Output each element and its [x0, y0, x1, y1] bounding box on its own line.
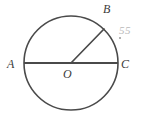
radius-segment-ob — [71, 29, 104, 63]
point-label-b: B — [103, 3, 110, 15]
geometry-figure: A B C O 55 — [0, 0, 148, 125]
point-label-c: C — [121, 58, 129, 70]
point-label-a: A — [7, 58, 14, 70]
degree-mark-icon — [119, 37, 121, 39]
point-label-o: O — [63, 68, 72, 80]
angle-annotation-label: 55 — [119, 25, 131, 36]
